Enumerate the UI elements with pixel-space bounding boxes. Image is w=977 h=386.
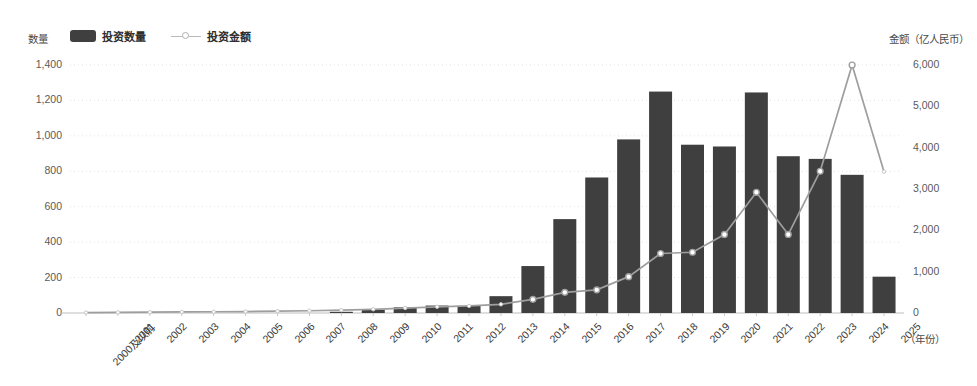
- bar[interactable]: [553, 219, 576, 313]
- bar[interactable]: [649, 92, 672, 313]
- line-data-point[interactable]: [467, 304, 470, 307]
- line-data-point[interactable]: [594, 287, 600, 293]
- line-data-point[interactable]: [276, 309, 279, 312]
- line-data-point[interactable]: [244, 310, 247, 313]
- bar[interactable]: [809, 159, 832, 313]
- line-data-point[interactable]: [626, 274, 632, 280]
- bar[interactable]: [521, 266, 544, 313]
- bar[interactable]: [681, 145, 704, 313]
- line-data-point[interactable]: [308, 309, 311, 312]
- line-data-point[interactable]: [499, 303, 502, 306]
- line-data-point[interactable]: [882, 170, 885, 173]
- line-data-point[interactable]: [148, 310, 151, 313]
- line-data-point[interactable]: [212, 310, 215, 313]
- line-data-point[interactable]: [753, 189, 759, 195]
- line-data-point[interactable]: [403, 306, 406, 309]
- line-data-point[interactable]: [372, 308, 375, 311]
- line-data-point[interactable]: [84, 311, 87, 314]
- line-data-point[interactable]: [849, 62, 855, 68]
- line-data-point[interactable]: [785, 232, 791, 238]
- line-data-point[interactable]: [722, 232, 728, 238]
- bar[interactable]: [873, 277, 896, 313]
- line-data-point[interactable]: [562, 289, 568, 295]
- line-data-point[interactable]: [817, 168, 823, 174]
- bar[interactable]: [713, 146, 736, 313]
- line-data-point[interactable]: [530, 296, 536, 302]
- plot-area: [0, 0, 977, 386]
- bar[interactable]: [841, 175, 864, 313]
- chart-container: 数量 金额（亿人民币） 投资数量投资金额 02004006008001,0001…: [0, 0, 977, 386]
- line-data-point[interactable]: [180, 310, 183, 313]
- line-data-point[interactable]: [658, 251, 664, 257]
- bar[interactable]: [617, 139, 640, 313]
- line-data-point[interactable]: [340, 308, 343, 311]
- line-data-point[interactable]: [435, 305, 438, 308]
- line-data-point[interactable]: [116, 311, 119, 314]
- line-data-point[interactable]: [690, 249, 696, 255]
